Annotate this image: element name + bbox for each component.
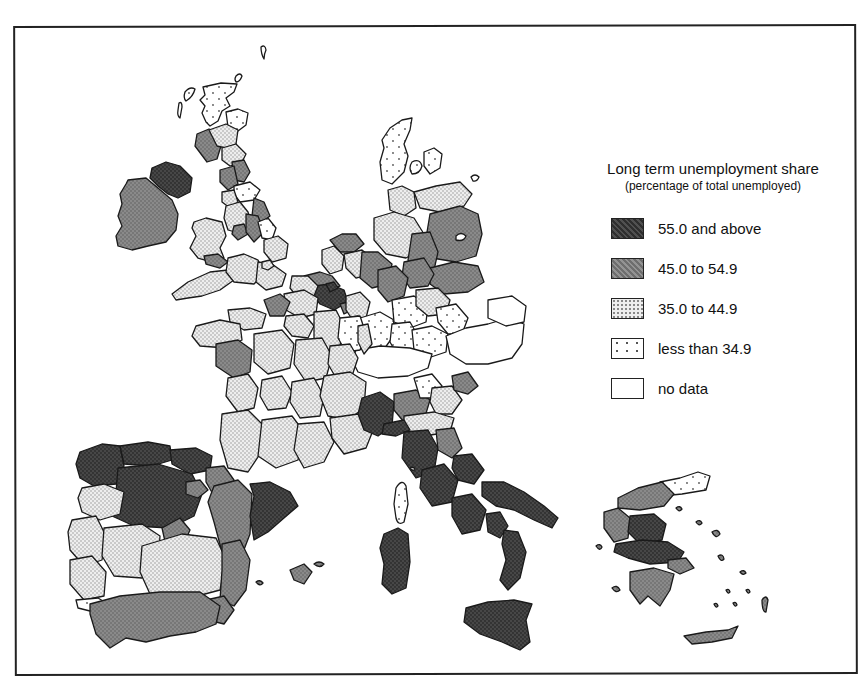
region-zealand <box>424 148 442 174</box>
region-berlin <box>456 234 466 241</box>
region-la-rioja <box>186 480 208 498</box>
region-epirus <box>604 508 630 542</box>
legend: Long term unemployment share (percentage… <box>578 160 848 408</box>
region-austria-east <box>488 296 526 326</box>
swatch-light <box>611 298 644 319</box>
region-bornholm <box>471 175 479 181</box>
swatch-medium <box>611 258 644 279</box>
swatch-dark <box>611 218 644 239</box>
region-shetland <box>261 46 266 59</box>
region-aquitaine <box>220 410 262 472</box>
region-ile-de-france <box>284 314 314 338</box>
legend-label: 55.0 and above <box>658 220 761 237</box>
region-marche <box>436 428 462 458</box>
region-south-wales <box>204 254 228 268</box>
region-attica <box>668 558 694 574</box>
region-castilla-leon <box>112 464 202 528</box>
region-hebrides <box>178 88 195 118</box>
region-east-anglia <box>264 236 288 262</box>
region-languedoc <box>294 422 334 468</box>
legend-label: no data <box>658 380 708 397</box>
region-friuli <box>452 372 478 394</box>
region-north-portugal <box>78 484 124 520</box>
legend-item-less-than-34: less than 34.9 <box>611 328 848 368</box>
region-elba <box>410 467 415 470</box>
region-alentejo <box>70 556 106 600</box>
legend-label: less than 34.9 <box>658 340 751 357</box>
region-sicily <box>464 600 532 650</box>
swatch-empty <box>611 378 644 399</box>
region-calabria <box>500 530 526 590</box>
legend-label: 35.0 to 44.9 <box>658 300 737 317</box>
region-pays-de-la-loire <box>216 340 252 378</box>
region-andalusia <box>90 592 220 648</box>
region-south-west <box>172 270 234 300</box>
region-macedonia <box>618 482 674 510</box>
region-crete <box>684 626 738 644</box>
region-castilla-la-mancha <box>140 534 226 598</box>
region-poitou <box>226 374 258 412</box>
region-auvergne <box>290 378 324 418</box>
region-balearics <box>256 562 324 585</box>
region-centre <box>254 330 294 374</box>
region-schleswig <box>388 186 416 216</box>
region-funen <box>410 161 422 174</box>
swatch-sparse-dots <box>611 338 644 359</box>
region-thessaly <box>628 514 666 544</box>
region-campania <box>452 494 486 534</box>
region-jutland <box>380 118 412 184</box>
region-corsica <box>394 482 408 523</box>
legend-item-no-data: no data <box>611 368 848 408</box>
region-limousin <box>260 376 292 410</box>
legend-item-55-and-above: 55.0 and above <box>611 208 848 248</box>
legend-subtitle: (percentage of total unemployed) <box>578 178 848 194</box>
region-orkney <box>235 74 242 82</box>
legend-item-35-to-44: 35.0 to 44.9 <box>611 288 848 328</box>
region-sardinia <box>380 528 410 594</box>
region-peloponnese <box>630 568 674 606</box>
legend-item-45-to-54: 45.0 to 54.9 <box>611 248 848 288</box>
legend-label: 45.0 to 54.9 <box>658 260 737 277</box>
region-catalonia <box>250 482 298 540</box>
legend-title: Long term unemployment share <box>578 160 848 178</box>
region-asturias <box>120 442 172 466</box>
